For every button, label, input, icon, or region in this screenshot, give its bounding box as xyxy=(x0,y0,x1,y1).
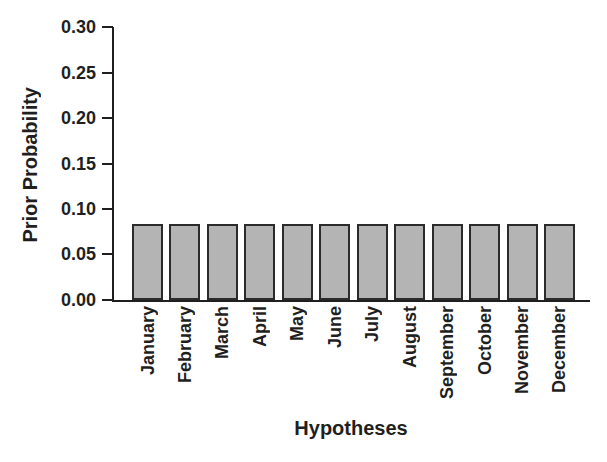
y-tick-label: 0.05 xyxy=(36,242,96,266)
bar-october xyxy=(469,224,500,300)
bar-february xyxy=(169,224,200,300)
y-tick-mark xyxy=(102,72,113,74)
x-tick-label-february: February xyxy=(173,306,197,383)
x-tick-label-june: June xyxy=(323,306,347,348)
x-tick-label-january: January xyxy=(136,306,160,375)
x-tick-label-september: September xyxy=(435,306,459,399)
bar-chart-figure: Prior Probability 0.000.050.100.150.200.… xyxy=(0,0,607,462)
bar-march xyxy=(207,224,238,300)
bar-september xyxy=(432,224,463,300)
y-tick-mark xyxy=(102,26,113,28)
x-tick-label-july: July xyxy=(360,306,384,342)
y-tick-mark xyxy=(102,253,113,255)
bar-january xyxy=(132,224,163,300)
x-tick-label-april: April xyxy=(248,306,272,347)
bar-july xyxy=(357,224,388,300)
bar-june xyxy=(319,224,350,300)
bar-november xyxy=(507,224,538,300)
bar-may xyxy=(282,224,313,300)
bars-group xyxy=(132,27,575,300)
x-tick-label-march: March xyxy=(210,306,234,359)
x-tick-label-december: December xyxy=(547,306,571,393)
bar-april xyxy=(244,224,275,300)
y-tick-label: 0.30 xyxy=(36,15,96,39)
y-tick-mark xyxy=(102,163,113,165)
y-tick-label: 0.25 xyxy=(36,61,96,85)
x-tick-label-may: May xyxy=(285,306,309,341)
y-tick-mark xyxy=(102,208,113,210)
y-tick-label: 0.15 xyxy=(36,152,96,176)
y-tick-label: 0.10 xyxy=(36,197,96,221)
y-tick-label: 0.20 xyxy=(36,106,96,130)
bar-december xyxy=(544,224,575,300)
x-tick-label-october: October xyxy=(473,306,497,375)
x-tick-label-august: August xyxy=(398,306,422,368)
y-tick-label: 0.00 xyxy=(36,288,96,312)
y-tick-mark xyxy=(102,299,113,301)
x-tick-label-november: November xyxy=(510,306,534,394)
y-tick-mark xyxy=(102,117,113,119)
x-axis-title: Hypotheses xyxy=(112,417,590,440)
bar-august xyxy=(394,224,425,300)
plot-area xyxy=(112,27,590,302)
